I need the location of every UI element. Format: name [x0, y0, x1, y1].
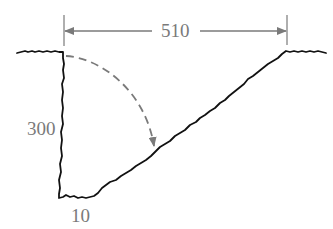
- top-width-label: 510: [158, 21, 193, 40]
- ground-profile: [17, 51, 326, 198]
- rotation-arc: [66, 56, 154, 146]
- bottom-width-label: 10: [71, 206, 90, 225]
- depth-label: 300: [27, 119, 56, 138]
